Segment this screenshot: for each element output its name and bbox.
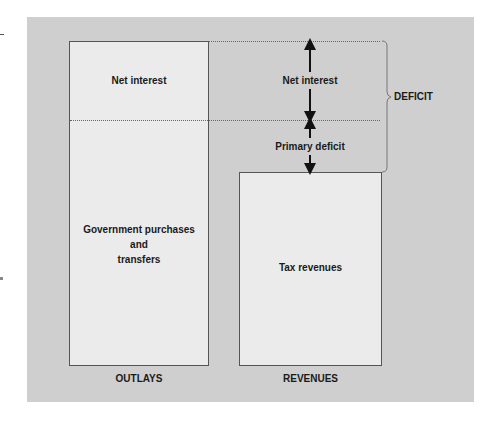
gap-net-interest-label: Net interest: [270, 73, 350, 88]
annotation-arrows: [0, 0, 495, 422]
deficit-brace-label: DEFICIT: [394, 89, 433, 104]
gap-primary-deficit-label: Primary deficit: [262, 139, 358, 154]
